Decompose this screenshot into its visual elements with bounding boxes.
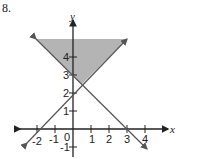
x-tick-label: -2 <box>32 135 42 147</box>
y-tick-label: 2 <box>63 87 69 99</box>
y-tick-label: 3 <box>63 69 69 81</box>
x-tick-label: 3 <box>124 133 130 145</box>
x-tick-label: 4 <box>142 133 148 145</box>
x-tick-label: 1 <box>89 133 95 145</box>
y-tick-label: 1 <box>63 105 69 117</box>
shaded-region <box>36 39 127 84</box>
x-axis-label: x <box>169 123 175 135</box>
y-axis-label: y <box>69 10 75 22</box>
coordinate-plane: -2 -1 0 1 2 3 4 -1 1 2 3 4 x y <box>0 0 203 159</box>
y-tick-label: 4 <box>63 51 69 63</box>
y-tick-label: -1 <box>60 141 70 153</box>
x-tick-label: 2 <box>106 133 112 145</box>
x-tick-label: -1 <box>49 133 59 145</box>
